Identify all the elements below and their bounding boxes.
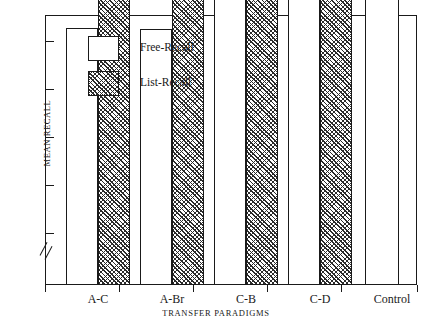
x-tick-label-c-d: C-D — [285, 292, 355, 307]
x-tick-mark-right-edge — [417, 285, 418, 292]
x-tick-mark-1 — [119, 285, 120, 292]
bar-list-recall-c-d — [320, 0, 352, 285]
bar-free-recall-a-c — [66, 28, 98, 285]
bar-free-recall-c-d — [288, 0, 320, 285]
x-tick-label-control: Control — [357, 292, 427, 307]
legend-label-free-recall: Free-Recall — [140, 41, 194, 53]
white-square-icon — [88, 36, 119, 61]
x-tick-label-a-br: A-Br — [137, 292, 207, 307]
bar-free-recall-a-br — [140, 29, 172, 285]
bar-chart-figure: MEAN RECALL 8 7 6 5 4 — [0, 0, 432, 322]
x-tick-mark-3 — [267, 285, 268, 292]
x-tick-label-c-b: C-B — [211, 292, 281, 307]
x-axis-title: TRANSFER PARADIGMS — [0, 308, 432, 318]
x-tick-mark-4 — [341, 285, 342, 292]
x-tick-mark-2 — [193, 285, 194, 292]
x-tick-mark-left-edge — [45, 285, 46, 292]
hatched-square-icon — [88, 71, 119, 96]
bar-list-recall-c-b — [246, 0, 278, 285]
legend-label-list-recall: List-Recall — [140, 76, 191, 88]
bar-free-recall-control — [365, 0, 399, 285]
x-tick-label-a-c: A-C — [63, 292, 133, 307]
bar-free-recall-c-b — [214, 0, 246, 285]
